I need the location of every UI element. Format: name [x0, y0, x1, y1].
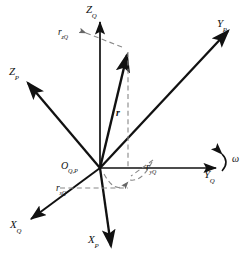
vector-r [100, 55, 127, 168]
projection-rzQ-dashed [86, 33, 122, 47]
component-label-rxQ-sub: xQ [59, 190, 66, 196]
vector-label-r: r [116, 108, 120, 118]
component-label-ryQ: ryQ [146, 163, 157, 175]
axis-label-YP-sub: P [223, 26, 227, 33]
origin-label: OQ,P [61, 161, 78, 173]
component-label-ryQ-sub: yQ [149, 169, 156, 175]
axis-label-YP: YP [217, 18, 227, 32]
axis-XP [100, 168, 111, 246]
coordinate-frame-diagram [0, 0, 247, 259]
omega-label: ω [232, 154, 239, 164]
axis-label-YQ: YQ [204, 169, 215, 183]
axis-label-YQ-sub: Q [210, 177, 215, 184]
axis-label-XP-sub: P [94, 242, 98, 249]
axis-label-ZP: ZP [9, 66, 19, 80]
axis-label-XP: XP [88, 234, 99, 248]
axis-ZP [28, 83, 100, 168]
component-label-rzQ: rzQ [58, 28, 68, 40]
axis-label-ZQ-sub: Q [92, 12, 97, 19]
origin-label-sub: Q,P [68, 167, 78, 174]
component-label-rzQ-sub: zQ [61, 34, 68, 40]
axis-label-XQ: XQ [10, 219, 22, 233]
axis-label-ZQ: ZQ [86, 4, 97, 18]
component-label-rxQ: rxQ [56, 184, 67, 196]
omega-arc-icon [222, 154, 226, 171]
vector-label-r-name: r [116, 107, 120, 118]
axis-YP [100, 31, 228, 168]
axis-label-XQ-sub: Q [16, 227, 21, 234]
omega-label-symbol: ω [232, 153, 239, 164]
axis-label-ZP-sub: P [15, 74, 19, 81]
